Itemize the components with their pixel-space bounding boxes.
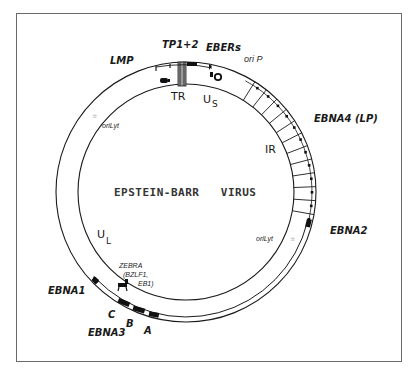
label-tr: TR <box>170 90 186 103</box>
label-ebers: EBERs <box>206 42 241 53</box>
ir-repeat-line <box>253 90 267 107</box>
ebna4-exon-mark <box>311 191 314 194</box>
orilyt-left-star-icon: ☆ <box>92 112 97 119</box>
ir-repeat-line <box>276 121 294 133</box>
label-ul-sub: L <box>106 236 111 246</box>
ir-repeat-line <box>269 109 286 123</box>
ir-repeat-line <box>294 199 316 200</box>
lmp-exon-marker <box>160 78 170 83</box>
ebna4-exon-mark <box>256 87 259 90</box>
label-ul: U <box>97 228 105 241</box>
ebna4-exon-mark <box>277 105 280 108</box>
label-us-sub: S <box>212 99 218 109</box>
label-ebna3-b: B <box>126 318 134 329</box>
diagram-title: EPSTEIN-BARR VIRUS <box>114 186 256 199</box>
label-us: U <box>203 93 211 106</box>
label-ebna1: EBNA1 <box>48 285 86 296</box>
label-ir: IR <box>265 143 276 156</box>
ebv-genome-map: ☆ ☆ LMP TP1+2 EBERs ori P EBNA4 (LP) EBN… <box>0 0 420 378</box>
ir-repeat-line <box>294 187 316 188</box>
ebers-marker <box>210 72 221 80</box>
ebna4-exon-mark <box>299 138 302 141</box>
ebna3-exons <box>117 298 159 318</box>
label-zebra-2: (BZLF1, <box>123 271 148 279</box>
ebna4-exon-mark <box>310 177 313 180</box>
ir-repeat-line <box>262 99 277 115</box>
ebna4-exon-mark <box>310 205 313 208</box>
zebra-horse-icon <box>118 279 128 291</box>
label-orilyt-left: oriLyt <box>102 122 120 130</box>
label-tp: TP1+2 <box>162 39 198 50</box>
label-lmp: LMP <box>110 55 134 66</box>
ebna4-exon-mark <box>293 126 296 129</box>
ebna4-exon-mark <box>267 95 270 98</box>
label-ebna4: EBNA4 (LP) <box>314 113 378 124</box>
label-orip: ori P <box>244 54 263 64</box>
ir-repeat-lines <box>243 82 316 221</box>
ir-repeat-line <box>243 82 255 101</box>
label-ebna3-a: A <box>143 325 152 336</box>
label-zebra-1: ZEBRA <box>118 262 143 269</box>
label-ebna3: EBNA3 <box>88 327 126 338</box>
label-ebna2: EBNA2 <box>330 225 368 236</box>
ebna4-exon-mark <box>308 164 311 167</box>
orilyt-right-star-icon: ☆ <box>290 235 295 242</box>
label-ebna3-c: C <box>108 309 116 320</box>
label-orilyt-right: oriLyt <box>256 235 274 243</box>
terminal-repeat-block <box>178 62 186 86</box>
label-zebra-3: EB1) <box>138 280 154 288</box>
ebna4-exon-mark <box>304 151 307 154</box>
ir-repeat-line <box>282 133 302 143</box>
ebna4-exon-mark <box>285 115 288 118</box>
